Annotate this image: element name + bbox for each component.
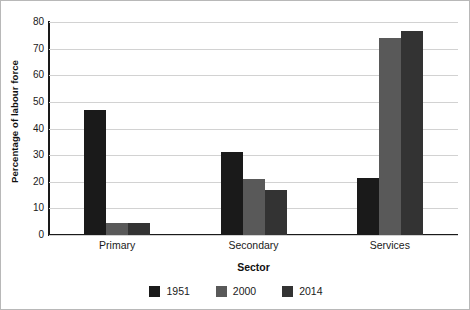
x-axis-category-label: Secondary [228, 239, 278, 251]
y-axis-tick-label: 60 [2, 70, 44, 80]
bar[interactable] [243, 179, 265, 235]
bar[interactable] [221, 152, 243, 235]
bars-layer [49, 22, 458, 235]
x-axis-title: Sector [49, 261, 458, 273]
gridline [49, 235, 458, 236]
y-axis-tick-label: 10 [2, 203, 44, 213]
bar-chart: Percentage of labour force 0102030405060… [0, 0, 470, 310]
y-axis-tick-label: 80 [2, 17, 44, 27]
legend-label: 2000 [233, 286, 256, 297]
legend: 195120002014 [1, 286, 470, 297]
bar-group [357, 22, 423, 235]
legend-item[interactable]: 1951 [149, 286, 189, 297]
legend-item[interactable]: 2014 [282, 286, 322, 297]
legend-item[interactable]: 2000 [216, 286, 256, 297]
y-axis-tick-label: 70 [2, 44, 44, 54]
legend-swatch [282, 286, 293, 297]
bar[interactable] [401, 31, 423, 235]
legend-label: 1951 [166, 286, 189, 297]
y-axis-tick-label: 50 [2, 97, 44, 107]
y-axis-tick-label: 0 [2, 230, 44, 240]
legend-swatch [149, 286, 160, 297]
legend-swatch [216, 286, 227, 297]
bar[interactable] [128, 223, 150, 235]
y-axis-tick-labels: 01020304050607080 [1, 22, 44, 235]
legend-label: 2014 [299, 286, 322, 297]
y-axis-tick-label: 20 [2, 177, 44, 187]
y-axis-tick-label: 40 [2, 124, 44, 134]
bar[interactable] [106, 223, 128, 235]
plot-area [49, 22, 458, 235]
x-axis-category-label: Services [370, 239, 410, 251]
x-axis-category-label: Primary [99, 239, 135, 251]
x-axis-category-labels: PrimarySecondaryServices [49, 239, 458, 257]
bar[interactable] [84, 110, 106, 235]
bar-group [84, 22, 150, 235]
bar[interactable] [357, 178, 379, 235]
bar[interactable] [379, 38, 401, 235]
y-axis-tick-label: 30 [2, 150, 44, 160]
bar-group [221, 22, 287, 235]
bar[interactable] [265, 190, 287, 235]
